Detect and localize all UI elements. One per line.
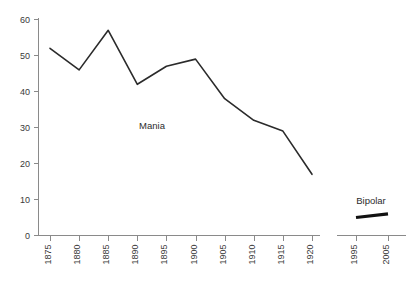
y-tick-label: 30 [20,123,30,133]
x-axis-ticks-bipolar [357,236,389,241]
x-tick-label: 1915 [276,245,286,265]
series-line-bipolar [356,214,388,218]
x-tick-label: 1880 [72,245,82,265]
chart-container: 60 50 40 30 20 10 0 18751880188518901895… [0,0,417,286]
x-tick-label: 1900 [189,245,199,265]
x-tick-label: 1885 [101,245,111,265]
x-tick-label: 1875 [43,245,53,265]
y-axis-ticks [34,20,39,236]
x-tick-label: 1920 [305,245,315,265]
x-tick-label: 1895 [159,245,169,265]
x-tick-label: 1995 [349,245,359,265]
y-tick-label: 20 [20,159,30,169]
y-tick-label: 60 [20,15,30,25]
series-label-mania: Mania [139,120,166,131]
x-tick-label: 2005 [381,245,391,265]
y-tick-label: 40 [20,87,30,97]
series-label-bipolar: Bipolar [356,195,386,206]
y-tick-label: 0 [25,231,30,241]
x-tick-label: 1905 [218,245,228,265]
y-tick-label: 50 [20,51,30,61]
x-axis-ticks-mania [51,236,313,241]
x-tick-label: 1890 [130,245,140,265]
y-axis-tick-labels: 60 50 40 30 20 10 0 [20,15,30,241]
series-line-mania [50,30,312,174]
x-axis-tick-labels-mania: 1875188018851890189519001905191019151920 [43,245,315,265]
line-chart: 60 50 40 30 20 10 0 18751880188518901895… [0,0,417,286]
x-tick-label: 1910 [247,245,257,265]
x-axis-tick-labels-bipolar: 19952005 [349,245,391,265]
y-tick-label: 10 [20,195,30,205]
